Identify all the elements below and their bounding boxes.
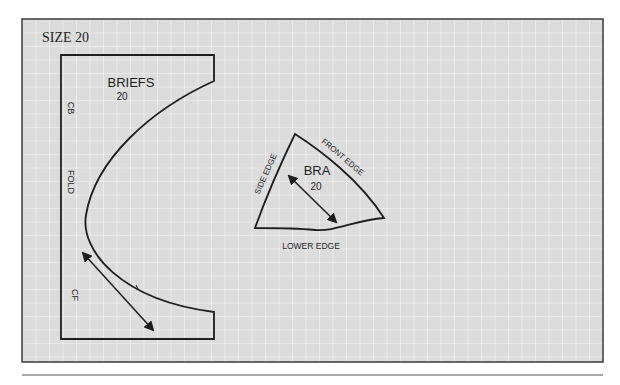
briefs-size: 20: [116, 91, 128, 102]
briefs-cb-label: CB: [66, 102, 76, 115]
briefs-cf-label: CF: [70, 289, 80, 301]
bra-title: BRA: [304, 163, 331, 178]
bra-size: 20: [310, 181, 322, 192]
pattern-diagram: SIZE 20 BRIEFS 20 CB FOLD CF BRA 20 SIDE…: [0, 0, 620, 385]
size-label: SIZE 20: [42, 30, 89, 45]
briefs-title: BRIEFS: [108, 75, 155, 90]
bra-lower-edge-label: LOWER EDGE: [282, 241, 340, 251]
briefs-fold-label: FOLD: [66, 170, 76, 195]
